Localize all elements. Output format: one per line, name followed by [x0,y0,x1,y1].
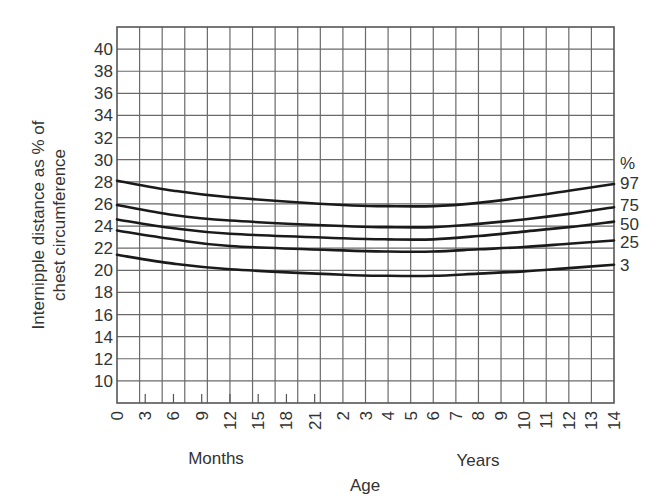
legend-title: % [620,154,635,173]
x-tick-label-month: 6 [164,411,183,420]
x-group-label-years: Years [457,451,500,470]
y-tick-label: 40 [94,40,113,59]
x-tick-label-year: 14 [605,411,624,430]
y-axis-title-line2: chest circumference [50,149,69,301]
legend-label-p50: 50 [620,215,639,234]
x-tick-label-year: 9 [492,411,511,420]
x-tick-label-year: 2 [334,411,353,420]
x-tick-label-year: 3 [357,411,376,420]
y-tick-label: 30 [94,151,113,170]
y-tick-labels: 10121416182022242628303234363840 [94,40,113,391]
legend-label-p75: 75 [620,196,639,215]
x-tick-label-year: 5 [402,411,421,420]
chart: 10121416182022242628303234363840 0369121… [0,0,666,502]
y-tick-label: 10 [94,372,113,391]
y-tick-label: 12 [94,350,113,369]
x-tick-label-month: 15 [249,411,268,430]
x-group-label-months: Months [188,449,244,468]
month-tick-marks [145,394,314,403]
legend: % 977550253 [620,154,639,275]
x-tick-label-month: 3 [136,411,155,420]
x-tick-label-month: 18 [277,411,296,430]
y-tick-label: 20 [94,261,113,280]
x-tick-label-year: 8 [469,411,488,420]
x-tick-label-year: 13 [582,411,601,430]
x-tick-label-month: 0 [108,411,127,420]
grid [117,27,614,403]
x-tick-label-month: 12 [221,411,240,430]
x-tick-label-year: 11 [537,411,556,429]
y-tick-label: 38 [94,62,113,81]
x-tick-label-year: 12 [560,411,579,430]
y-tick-label: 26 [94,195,113,214]
x-tick-labels: 036912151821234567891011121314 [108,411,624,430]
y-tick-label: 16 [94,306,113,325]
x-tick-label-month: 9 [193,411,212,420]
x-tick-label-year: 4 [379,411,398,420]
y-tick-label: 32 [94,129,113,148]
legend-label-p97: 97 [620,174,639,193]
y-tick-label: 24 [94,217,113,236]
y-tick-label: 18 [94,283,113,302]
legend-label-p25: 25 [620,233,639,252]
y-tick-label: 14 [94,328,113,347]
x-tick-label-year: 6 [424,411,443,420]
x-axis-title: Age [350,476,380,495]
y-tick-label: 34 [94,106,113,125]
y-tick-label: 28 [94,173,113,192]
y-tick-label: 36 [94,84,113,103]
x-tick-label-year: 10 [515,411,534,430]
legend-label-p3: 3 [620,256,629,275]
x-tick-label-year: 7 [447,411,466,420]
x-tick-label-month: 21 [306,411,325,430]
y-tick-label: 22 [94,239,113,258]
y-axis-title-line1: Internipple distance as % of [29,120,48,329]
